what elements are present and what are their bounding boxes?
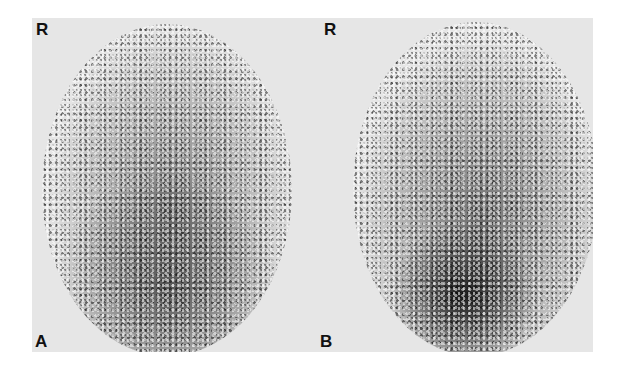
orientation-label-b: R xyxy=(324,21,336,38)
speckle-texture xyxy=(42,24,292,352)
uptake-region-b xyxy=(353,22,593,352)
orientation-label-a: R xyxy=(36,21,48,38)
speckle-texture xyxy=(353,22,593,352)
scan-figure xyxy=(32,18,593,352)
panel-label-a: A xyxy=(35,333,47,350)
scan-panel-a xyxy=(32,18,312,352)
panel-label-b: B xyxy=(320,333,332,350)
uptake-region-a xyxy=(42,24,292,352)
scan-panel-b xyxy=(313,18,593,352)
